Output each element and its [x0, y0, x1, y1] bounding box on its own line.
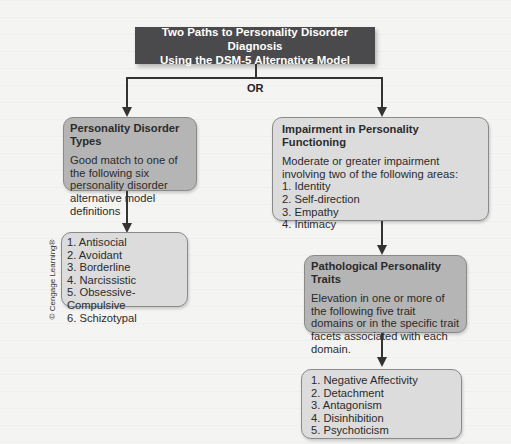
- arrow-down-icon: [377, 357, 387, 367]
- list-item: 1. Negative Affectivity: [311, 374, 452, 387]
- disorder-types-list-box: 1. Antisocial 2. Avoidant 3. Borderline …: [61, 232, 188, 307]
- list-item: 4. Disinhibition: [311, 412, 452, 425]
- box-header: Impairment in Personality Functioning: [282, 123, 479, 148]
- list-item: 6. Schizotypal: [67, 312, 182, 325]
- list-item: 5. Obsessive-Compulsive: [67, 286, 182, 311]
- trait-domains-list: 1. Negative Affectivity 2. Detachment 3.…: [311, 374, 452, 437]
- list-item: 2. Detachment: [311, 387, 452, 400]
- disorder-types-list: 1. Antisocial 2. Avoidant 3. Borderline …: [67, 236, 182, 324]
- list-item: 3. Antagonism: [311, 399, 452, 412]
- list-item: 1. Antisocial: [67, 236, 182, 249]
- title-stem-connector: [255, 64, 257, 78]
- personality-disorder-types-box: Personality Disorder Types Good match to…: [63, 117, 197, 191]
- list-item: 3. Borderline: [67, 261, 182, 274]
- right-branch-connector: [381, 77, 383, 109]
- box-body: Good match to one of the following six p…: [70, 154, 190, 217]
- list-item: 1. Identity: [282, 180, 479, 193]
- list-item: 5. Psychoticism: [311, 424, 452, 437]
- arrow-down-icon: [377, 245, 387, 255]
- copyright-notice: © Cengage Learning®: [48, 240, 57, 320]
- arrow-down-icon: [122, 107, 132, 117]
- horizontal-split-connector: [126, 77, 382, 79]
- box-header: Pathological Personality Traits: [311, 260, 460, 285]
- or-label: OR: [247, 82, 264, 94]
- box-body: Elevation in one or more of the followin…: [311, 292, 460, 355]
- box-body: Moderate or greater impairment involving…: [282, 155, 479, 180]
- list-item: 4. Narcissistic: [67, 274, 182, 287]
- list-item: 2. Avoidant: [67, 249, 182, 262]
- traits-list-connector: [381, 333, 383, 359]
- impairment-traits-connector: [381, 221, 383, 247]
- arrow-down-icon: [377, 107, 387, 117]
- pathological-traits-box: Pathological Personality Traits Elevatio…: [304, 255, 467, 333]
- left-branch-connector: [126, 77, 128, 109]
- list-item: 2. Self-direction: [282, 193, 479, 206]
- impairment-functioning-box: Impairment in Personality Functioning Mo…: [272, 117, 489, 221]
- trait-domains-list-box: 1. Negative Affectivity 2. Detachment 3.…: [301, 369, 462, 439]
- diagram-title: Two Paths to Personality Disorder Diagno…: [135, 27, 375, 64]
- title-line-1: Two Paths to Personality Disorder Diagno…: [135, 25, 375, 53]
- list-item: 3. Empathy: [282, 206, 479, 219]
- box-header: Personality Disorder Types: [70, 122, 190, 147]
- left-types-connector: [126, 191, 128, 225]
